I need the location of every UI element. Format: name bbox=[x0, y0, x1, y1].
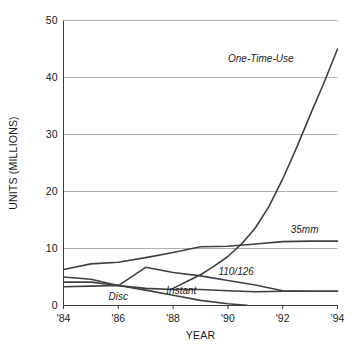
x-tick-label: '92 bbox=[276, 312, 290, 324]
x-tick-label: '84 bbox=[57, 312, 71, 324]
y-tick-label: 40 bbox=[46, 71, 58, 83]
series-label-110-126: 110/126 bbox=[218, 266, 254, 277]
y-axis-title: UNITS (MILLIONS) bbox=[7, 116, 19, 210]
x-tick-label: '88 bbox=[166, 312, 180, 324]
series-label-35mm: 35mm bbox=[291, 224, 319, 235]
x-tick-label: '90 bbox=[221, 312, 235, 324]
series-label-instant: Instant bbox=[166, 285, 197, 296]
y-tick-label: 30 bbox=[46, 128, 58, 140]
series-label-one-time-use: One-Time-Use bbox=[228, 53, 294, 64]
series-line-instant bbox=[64, 286, 338, 292]
x-tick-label: '94 bbox=[331, 312, 345, 324]
y-tick-label: 0 bbox=[52, 299, 58, 311]
chart-canvas: 01020304050'84'86'88'90'92'94YEARUNITS (… bbox=[0, 0, 352, 354]
series-label-disc: Disc bbox=[109, 291, 128, 302]
series-line-35mm bbox=[64, 241, 338, 270]
series-line-one-time-use bbox=[173, 49, 337, 288]
y-tick-label: 10 bbox=[46, 242, 58, 254]
line-chart: 01020304050'84'86'88'90'92'94YEARUNITS (… bbox=[0, 0, 352, 354]
y-tick-label: 20 bbox=[46, 185, 58, 197]
series-line-110-126 bbox=[64, 267, 338, 291]
x-axis-title: YEAR bbox=[186, 329, 216, 341]
x-tick-label: '86 bbox=[111, 312, 125, 324]
y-tick-label: 50 bbox=[46, 14, 58, 26]
